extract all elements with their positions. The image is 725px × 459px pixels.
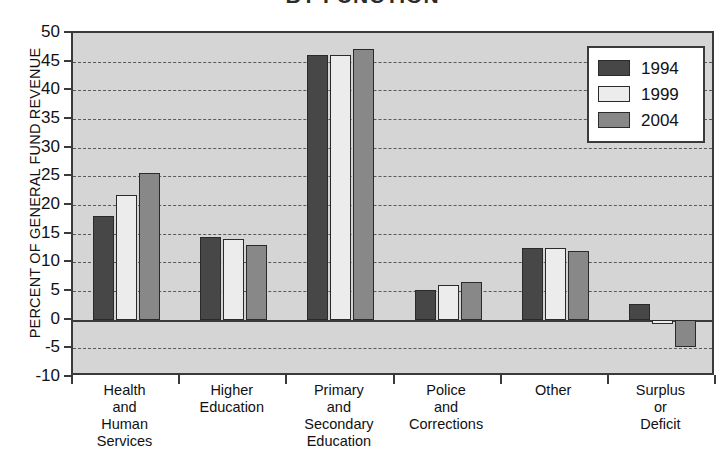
y-tick-mark — [64, 346, 71, 348]
y-tick-label: 35 — [14, 109, 60, 126]
legend-item: 2004 — [598, 107, 694, 133]
bar — [522, 248, 543, 320]
y-tick-label: 0 — [14, 310, 60, 327]
y-tick-label: 25 — [14, 166, 60, 183]
gridline — [73, 262, 712, 263]
y-tick-mark — [64, 203, 71, 205]
y-tick-mark — [64, 289, 71, 291]
y-tick-mark — [64, 60, 71, 62]
y-tick-label: 20 — [14, 195, 60, 212]
y-tick-mark — [64, 318, 71, 320]
bar — [93, 216, 114, 319]
y-tick-mark — [64, 88, 71, 90]
bar — [353, 49, 374, 320]
y-tick-label: 45 — [14, 52, 60, 69]
chart-title: BY FUNCTION — [0, 0, 725, 8]
y-tick-mark — [64, 174, 71, 176]
y-tick-label: 5 — [14, 281, 60, 298]
x-category-label: PrimaryandSecondaryEducation — [285, 382, 392, 450]
legend-item-label: 2004 — [641, 112, 679, 129]
y-tick-mark — [64, 117, 71, 119]
y-tick-mark — [64, 375, 71, 377]
x-category-label: HigherEducation — [178, 382, 285, 416]
gridline — [73, 148, 712, 149]
y-tick-label: 15 — [14, 224, 60, 241]
gridline — [73, 348, 712, 349]
x-category-label: Other — [500, 382, 607, 399]
bar — [545, 248, 566, 320]
bar — [568, 251, 589, 320]
legend-item-label: 1999 — [641, 86, 679, 103]
gridline — [73, 291, 712, 292]
bar — [139, 173, 160, 319]
y-tick-mark — [64, 146, 71, 148]
y-tick-label: 10 — [14, 252, 60, 269]
legend-swatch-icon — [598, 60, 630, 76]
bar — [200, 237, 221, 320]
legend-swatch-icon — [598, 112, 630, 128]
bar — [415, 290, 436, 320]
y-tick-label: 50 — [14, 23, 60, 40]
bar — [116, 195, 137, 319]
x-tick-mark — [714, 375, 716, 384]
gridline — [73, 205, 712, 206]
zero-axis-line — [73, 320, 712, 322]
bar — [246, 245, 267, 320]
bar — [223, 239, 244, 319]
bar — [330, 55, 351, 320]
y-tick-mark — [64, 260, 71, 262]
y-tick-label: -5 — [14, 338, 60, 355]
legend-item-label: 1994 — [641, 60, 679, 77]
bar — [461, 282, 482, 319]
bar — [307, 55, 328, 320]
chart-page: BY FUNCTION PERCENT OF GENERAL FUND REVE… — [0, 0, 725, 459]
gridline — [73, 176, 712, 177]
bar — [675, 320, 696, 348]
legend-item: 1999 — [598, 81, 694, 107]
bar — [629, 304, 650, 319]
bar — [652, 320, 673, 325]
x-category-label: PoliceandCorrections — [393, 382, 500, 433]
y-tick-label: 30 — [14, 138, 60, 155]
bar — [438, 285, 459, 319]
chart-legend: 1994 1999 2004 — [587, 46, 705, 143]
legend-item: 1994 — [598, 55, 694, 81]
y-tick-mark — [64, 31, 71, 33]
y-tick-mark — [64, 232, 71, 234]
x-category-label: SurplusorDeficit — [607, 382, 714, 433]
legend-swatch-icon — [598, 86, 630, 102]
y-tick-label: -10 — [14, 367, 60, 384]
gridline — [73, 234, 712, 235]
y-tick-label: 40 — [14, 80, 60, 97]
x-category-label: HealthandHumanServices — [71, 382, 178, 450]
